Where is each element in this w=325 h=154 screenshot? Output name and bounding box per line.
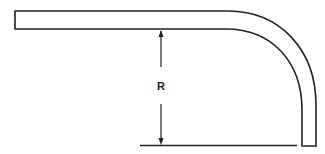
arrowhead-up-icon — [159, 30, 164, 37]
radius-label: R — [157, 80, 165, 92]
arrowhead-down-icon — [159, 138, 164, 145]
bend-radius-diagram: R — [0, 0, 325, 154]
bent-bar-outline — [15, 11, 316, 146]
